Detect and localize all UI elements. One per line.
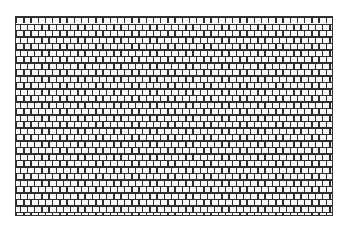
brick-course-lines [16, 17, 332, 215]
clipped-caption-text [30, 0, 330, 3]
brick-pattern-panel [15, 16, 333, 216]
